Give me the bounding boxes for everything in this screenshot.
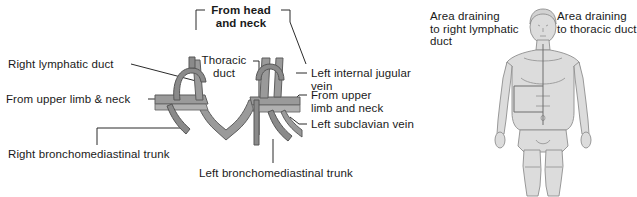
label-area-draining-thoracic-duct: Area draining to thoracic duct bbox=[557, 10, 637, 35]
body-left-leg bbox=[545, 150, 563, 196]
body-left-arm bbox=[574, 62, 589, 134]
body-pelvis bbox=[518, 130, 568, 152]
label-area-draining-right-lymphatic-duct: Area draining to right lymphatic duct bbox=[430, 10, 519, 48]
body-right-hand bbox=[495, 132, 505, 148]
body-right-leg bbox=[523, 150, 541, 196]
body-right-arm bbox=[497, 62, 512, 134]
lymphatic-drainage-diagram: From head and neck Right lymphatic duct … bbox=[0, 0, 637, 197]
body-left-hand bbox=[581, 132, 591, 148]
human-body-drainage-figure bbox=[0, 0, 637, 197]
